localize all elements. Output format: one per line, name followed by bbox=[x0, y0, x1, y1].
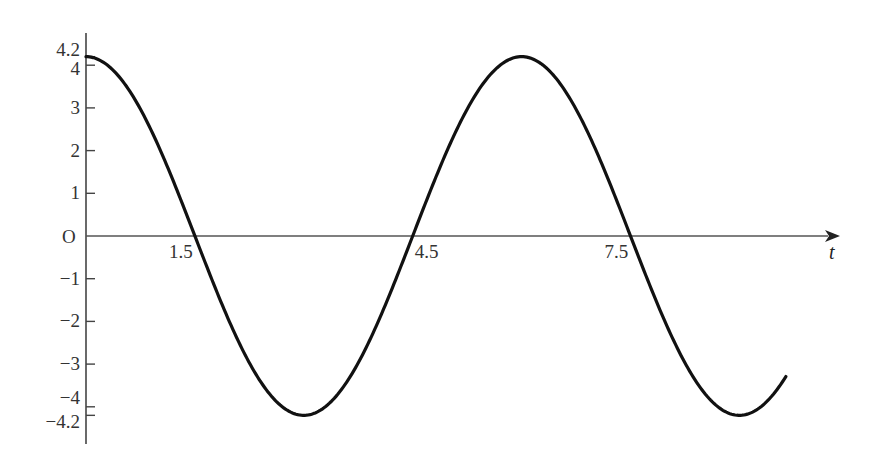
x-tick-label: 7.5 bbox=[605, 241, 629, 262]
x-ticks: 1.54.57.5 bbox=[169, 241, 628, 262]
cosine-wave-chart: t O 4.24321−1−2−3−4−4.2 1.54.57.5 bbox=[0, 0, 876, 470]
y-tick-label: −3 bbox=[60, 353, 80, 374]
y-tick-label: −4 bbox=[60, 387, 81, 408]
y-tick-label: 4.2 bbox=[56, 39, 80, 60]
y-tick-label: 3 bbox=[71, 97, 81, 118]
y-tick-label: 1 bbox=[71, 182, 81, 203]
y-tick-label: 4 bbox=[71, 58, 81, 79]
x-axis-label: t bbox=[829, 241, 835, 263]
x-tick-label: 4.5 bbox=[415, 241, 439, 262]
x-tick-label: 1.5 bbox=[169, 241, 193, 262]
y-tick-label: −1 bbox=[60, 268, 80, 289]
y-tick-label: −4.2 bbox=[46, 411, 80, 432]
y-tick-label: −2 bbox=[60, 310, 80, 331]
origin-label: O bbox=[62, 226, 76, 247]
y-tick-label: 2 bbox=[71, 140, 81, 161]
